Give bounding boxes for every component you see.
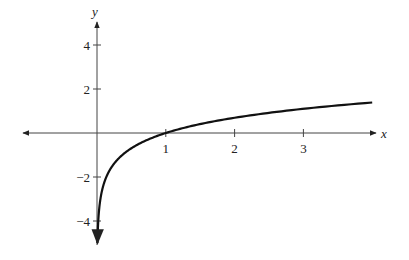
x-tick-label: 3 [300,141,307,156]
chart-canvas: 12342−2−4 x y [0,0,409,260]
x-tick-label: 1 [163,141,170,156]
y-axis-label: y [90,4,98,19]
ln-curve [97,103,372,244]
axes [23,22,376,245]
y-tick-label: −4 [76,214,90,229]
x-axis-label: x [380,126,387,141]
y-tick-label: 2 [84,82,91,97]
x-tick-label: 2 [231,141,238,156]
y-tick-label: 4 [84,38,91,53]
y-tick-label: −2 [76,170,90,185]
